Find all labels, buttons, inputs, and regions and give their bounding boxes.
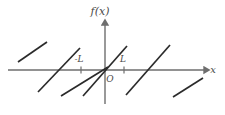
y-axis-label: f(x) — [90, 5, 110, 18]
function-graph-figure: f(x) x O -L L — [0, 0, 225, 115]
curve-segment-far-left-partial — [18, 42, 47, 62]
curve-segment-far-right-partial — [173, 78, 203, 97]
curve-segment-left-inner — [61, 67, 108, 96]
x-axis-label: x — [210, 64, 216, 75]
origin-label: O — [106, 74, 114, 84]
tick-label-positive-l: L — [119, 54, 126, 64]
tick-label-negative-l: -L — [74, 54, 83, 64]
graph-canvas: f(x) x O -L L — [0, 0, 225, 115]
